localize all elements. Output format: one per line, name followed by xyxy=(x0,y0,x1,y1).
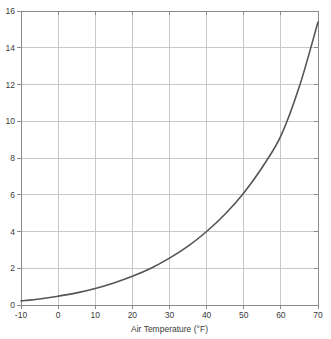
y-tick-label: 16 xyxy=(6,6,16,16)
x-tick-label: 20 xyxy=(128,310,138,320)
y-tick-label: 2 xyxy=(10,263,15,273)
y-tick-label: 10 xyxy=(6,116,16,126)
x-tick-label: 50 xyxy=(239,310,249,320)
y-tick-label: 0 xyxy=(10,300,15,310)
x-tick-label: 70 xyxy=(313,310,323,320)
chart-container: 0 2 4 6 8 10 12 14 16 -10 0 10 20 30 40 … xyxy=(0,0,331,339)
chart-plot: 0 2 4 6 8 10 12 14 16 -10 0 10 20 30 40 … xyxy=(0,0,331,339)
x-axis-title: Air Temperature (°F) xyxy=(131,324,208,334)
y-tick-label: 8 xyxy=(10,153,15,163)
x-tick-label: 60 xyxy=(276,310,286,320)
y-tick-label: 6 xyxy=(10,190,15,200)
x-tick-label: 10 xyxy=(91,310,101,320)
x-tick-label: 30 xyxy=(165,310,175,320)
y-tick-label: 12 xyxy=(6,80,16,90)
x-tick-label: 40 xyxy=(202,310,212,320)
y-tick-label: 14 xyxy=(6,43,16,53)
y-tick-label: 4 xyxy=(10,227,15,237)
x-tick-label: 0 xyxy=(56,310,61,320)
x-tick-label: -10 xyxy=(15,310,28,320)
